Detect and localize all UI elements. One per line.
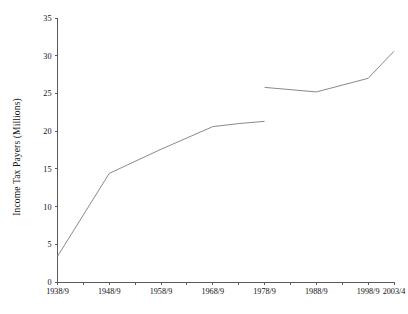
y-tick-label: 5 <box>47 240 51 249</box>
y-tick-label: 35 <box>43 14 51 23</box>
data-series-line-1 <box>265 51 394 92</box>
data-series-line-0 <box>58 121 265 256</box>
x-tick-label: 1958/9 <box>150 287 173 296</box>
x-tick-label: 2003/4 <box>383 287 406 296</box>
plot-area: 05101520253035 1938/91948/91958/91968/91… <box>0 0 408 314</box>
income-tax-payers-line-chart: Income Tax Payers (Millions) 05101520253… <box>0 0 408 314</box>
data-series-group <box>58 51 395 256</box>
x-tick-label: 1988/9 <box>305 287 328 296</box>
y-tick-label: 10 <box>43 203 51 212</box>
y-tick-label: 30 <box>43 52 51 61</box>
y-tick-label: 25 <box>43 89 51 98</box>
y-axis-tick-group: 05101520253035 <box>43 14 57 287</box>
x-tick-label: 1978/9 <box>253 287 276 296</box>
y-tick-label: 20 <box>43 127 51 136</box>
x-tick-label: 1968/9 <box>201 287 224 296</box>
y-tick-label: 15 <box>43 165 51 174</box>
x-tick-label: 1938/9 <box>46 287 69 296</box>
x-tick-label: 1948/9 <box>98 287 121 296</box>
x-axis-tick-group: 1938/91948/91958/91968/91978/91988/91998… <box>46 282 405 296</box>
x-tick-label: 1998/9 <box>357 287 380 296</box>
